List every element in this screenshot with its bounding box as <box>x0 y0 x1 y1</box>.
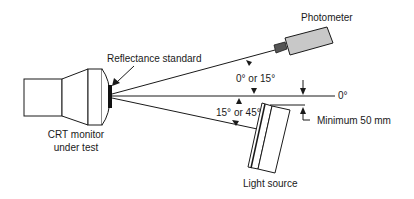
reflectance-standard <box>108 85 112 108</box>
angle-lower-label: 15° or 45° <box>216 107 261 118</box>
angle-upper-label: 0° or 15° <box>236 73 275 84</box>
crt-monitor-back <box>24 79 62 116</box>
photometer-label: Photometer <box>301 12 353 23</box>
photometer <box>274 27 333 55</box>
crt-monitor-front <box>88 69 102 125</box>
arrowhead-upper-2 <box>251 88 257 94</box>
crt-label-line2: under test <box>54 142 99 153</box>
crt-monitor <box>24 69 110 125</box>
minimum-distance-label: Minimum 50 mm <box>317 115 391 126</box>
zero-degree-label: 0° <box>338 90 348 101</box>
crt-monitor-neck <box>62 69 88 125</box>
photometer-lens <box>274 42 287 53</box>
arrowhead-lower-1 <box>236 98 242 104</box>
photometer-body <box>285 27 333 55</box>
light-source-label: Light source <box>243 178 298 189</box>
arrowhead-upper-1 <box>246 60 252 66</box>
reflectance-arrow <box>112 66 134 86</box>
crt-label-line1: CRT monitor <box>48 129 105 140</box>
reflectance-standard-label: Reflectance standard <box>107 53 202 64</box>
measurement-setup-diagram: Photometer Reflectance standard CRT moni… <box>0 0 414 199</box>
